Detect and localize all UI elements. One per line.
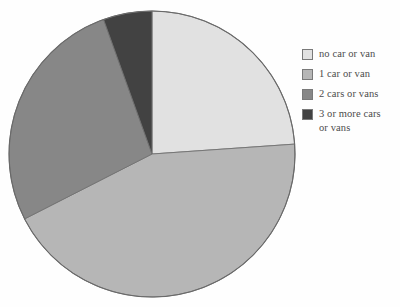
legend-item[interactable]: 2 cars or vans: [302, 87, 398, 101]
legend-item[interactable]: no car or van: [302, 47, 398, 61]
legend: no car or van 1 car or van 2 cars or van…: [302, 47, 398, 141]
pie-chart-svg: [0, 0, 300, 307]
pie-slice-group: [9, 11, 295, 297]
legend-item[interactable]: 3 or more cars or vans: [302, 107, 398, 134]
legend-label: 1 car or van: [319, 67, 370, 81]
legend-swatch-1-car-or-van: [302, 69, 313, 80]
legend-swatch-no-car-or-van: [302, 49, 313, 60]
legend-swatch-2-cars-or-vans: [302, 89, 313, 100]
legend-label: 2 cars or vans: [319, 87, 378, 101]
legend-item[interactable]: 1 car or van: [302, 67, 398, 81]
legend-label: no car or van: [319, 47, 375, 61]
legend-swatch-3-or-more-cars-or-vans: [302, 109, 313, 120]
pie-chart-plot-area: [0, 0, 300, 307]
pie-chart-figure: no car or van 1 car or van 2 cars or van…: [0, 0, 400, 307]
legend-label: 3 or more cars or vans: [319, 107, 381, 134]
pie-slice[interactable]: [152, 11, 295, 154]
